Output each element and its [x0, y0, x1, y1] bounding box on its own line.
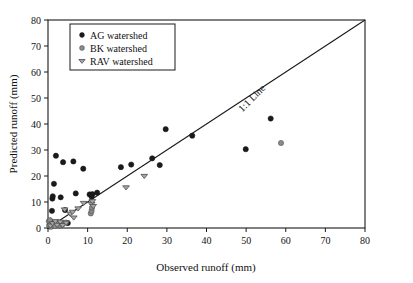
data-point — [150, 156, 155, 161]
data-point — [53, 153, 58, 158]
data-point — [49, 208, 54, 213]
y-tick-label: 20 — [31, 171, 41, 182]
data-point — [118, 165, 123, 170]
y-tick-label: 30 — [31, 145, 41, 156]
data-point — [51, 181, 56, 186]
data-point — [129, 162, 134, 167]
x-tick-label: 70 — [320, 235, 330, 246]
data-point — [90, 192, 95, 197]
data-point — [81, 166, 86, 171]
identity-line-label: 1:1 Line — [236, 82, 268, 114]
data-points — [46, 116, 283, 229]
y-tick-label: 40 — [31, 119, 41, 130]
legend-entry[interactable]: BK watershed — [80, 43, 147, 54]
y-tick-label: 50 — [31, 93, 41, 104]
x-tick-label: 30 — [162, 235, 172, 246]
legend-entry[interactable]: RAV watershed — [79, 56, 153, 67]
x-tick-label: 50 — [241, 235, 251, 246]
legend-entry-label: RAV watershed — [90, 56, 153, 67]
data-point — [70, 216, 77, 220]
data-point — [163, 127, 168, 132]
chart-canvas: 01020304050607080 01020304050607080 1:1 … — [0, 0, 413, 283]
y-axis-title: Predicted runoff (mm) — [7, 74, 20, 173]
chart-annotations: 1:1 Line — [236, 82, 268, 114]
x-tick-label: 0 — [46, 235, 51, 246]
series-ag-watershed — [47, 116, 273, 229]
series-rav-watershed — [47, 174, 148, 228]
x-tick-label: 20 — [122, 235, 132, 246]
data-point — [60, 160, 65, 165]
data-point — [157, 162, 162, 167]
legend-circle-icon — [80, 33, 85, 38]
y-tick-label: 0 — [36, 223, 41, 234]
scatter-plot-figure: 01020304050607080 01020304050607080 1:1 … — [0, 0, 413, 283]
x-tick-label: 60 — [281, 235, 291, 246]
x-axis-tick-labels: 01020304050607080 — [46, 235, 371, 246]
y-tick-label: 80 — [31, 15, 41, 26]
chart-legend[interactable]: AG watershedBK watershedRAV watershed — [70, 24, 175, 70]
legend-circle-icon — [80, 46, 85, 51]
data-point — [268, 116, 273, 121]
x-tick-label: 10 — [83, 235, 93, 246]
y-tick-label: 10 — [31, 197, 41, 208]
legend-entry-label: AG watershed — [90, 30, 147, 41]
data-point — [95, 190, 100, 195]
y-tick-label: 60 — [31, 67, 41, 78]
y-tick-label: 70 — [31, 41, 41, 52]
data-point — [50, 194, 55, 199]
y-axis-ticks — [44, 20, 48, 228]
x-axis-ticks — [48, 228, 365, 232]
data-point — [278, 140, 283, 145]
data-point — [73, 191, 78, 196]
x-tick-label: 80 — [360, 235, 370, 246]
data-point — [141, 174, 148, 178]
legend-entry-label: BK watershed — [90, 43, 147, 54]
x-tick-label: 40 — [202, 235, 212, 246]
series-bk-watershed — [46, 140, 283, 229]
x-axis-title: Observed runoff (mm) — [156, 261, 256, 274]
data-point — [71, 159, 76, 164]
data-point — [243, 147, 248, 152]
data-point — [58, 195, 63, 200]
data-point — [190, 133, 195, 138]
y-axis-tick-labels: 01020304050607080 — [31, 15, 41, 234]
data-point — [123, 186, 130, 190]
legend-entry[interactable]: AG watershed — [80, 30, 148, 41]
